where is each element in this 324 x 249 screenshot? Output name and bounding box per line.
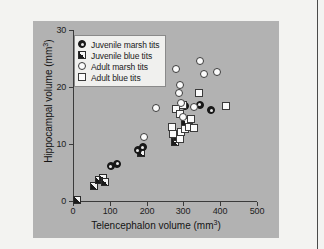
point-adult-marsh-tit-4: [177, 99, 185, 107]
point-adult-marsh-tit-5: [176, 81, 184, 89]
point-juvenile-marsh-tit-6: [207, 106, 215, 114]
chart-panel: 30 20 10 0 0 100 200 300 400 500 Hippoca…: [33, 21, 279, 238]
point-adult-marsh-tit-1: [152, 104, 160, 112]
point-adult-marsh-tit-10: [213, 68, 221, 76]
quartered-square-icon: [78, 51, 87, 60]
point-juvenile-marsh-tit-3: [139, 143, 147, 151]
figure-root: 30 20 10 0 0 100 200 300 400 500 Hippoca…: [0, 0, 324, 249]
point-juvenile-blue-tit-0: [73, 196, 81, 204]
open-square-icon: [78, 73, 87, 82]
filled-bullseye-circle-icon: [78, 40, 87, 49]
point-adult-marsh-tit-3: [175, 89, 183, 97]
point-adult-marsh-tit-0: [140, 133, 148, 141]
point-adult-marsh-tit-8: [196, 57, 204, 65]
plot-area: 30 20 10 0 0 100 200 300 400 500 Hippoca…: [33, 21, 279, 238]
legend-label-juvenile-marsh-tits: Juvenile marsh tits: [91, 40, 160, 50]
point-adult-marsh-tit-9: [200, 70, 208, 78]
point-adult-marsh-tit-7: [190, 103, 198, 111]
legend-item-juvenile-marsh-tits[interactable]: Juvenile marsh tits: [78, 39, 160, 50]
point-adult-marsh-tit-2: [172, 65, 180, 73]
point-adult-blue-tit-4: [176, 135, 184, 143]
point-adult-blue-tit-11: [195, 89, 203, 97]
point-juvenile-marsh-tit-1: [113, 160, 121, 168]
legend: Juvenile marsh tits Juvenile blue tits A…: [74, 35, 166, 87]
open-circle-icon: [78, 62, 87, 71]
legend-label-juvenile-blue-tits: Juvenile blue tits: [91, 51, 152, 61]
point-adult-blue-tit-12: [222, 102, 230, 110]
point-adult-blue-tit-9: [187, 115, 195, 123]
point-adult-blue-tit-10: [190, 124, 198, 132]
legend-label-adult-marsh-tits: Adult marsh tits: [91, 62, 148, 72]
point-juvenile-blue-tit-4: [101, 178, 109, 186]
legend-label-adult-blue-tits: Adult blue tits: [91, 73, 141, 83]
legend-item-juvenile-blue-tits[interactable]: Juvenile blue tits: [78, 50, 160, 61]
page-border-rule: [317, 0, 318, 249]
legend-item-adult-marsh-tits[interactable]: Adult marsh tits: [78, 61, 160, 72]
legend-item-adult-blue-tits[interactable]: Adult blue tits: [78, 72, 160, 83]
